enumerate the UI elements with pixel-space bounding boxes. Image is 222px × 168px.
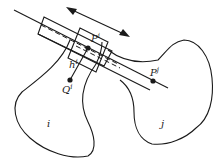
point-pi-dot <box>85 45 90 50</box>
point-qi-dot <box>67 77 72 82</box>
point-pj-dot <box>150 78 155 83</box>
translational-joint-diagram: Pi hi Qi Pj i j <box>0 0 222 168</box>
arrow-head-right-icon <box>119 29 130 37</box>
arrow-head-left-icon <box>66 7 77 15</box>
label-body-j: j <box>159 118 164 129</box>
label-qi: Qi <box>62 83 72 95</box>
label-body-i: i <box>47 118 50 129</box>
joint-axis-line <box>14 10 168 88</box>
label-pj: Pj <box>149 66 160 78</box>
label-pi: Pi <box>90 32 100 44</box>
body-i-outline <box>15 40 102 157</box>
